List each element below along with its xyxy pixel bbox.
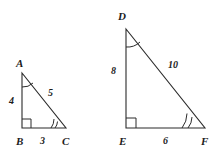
angle-arc-c-outer bbox=[51, 119, 54, 128]
side-label-de: 8 bbox=[111, 66, 116, 76]
side-label-ac: 5 bbox=[48, 88, 53, 98]
right-angle-mark-e bbox=[126, 118, 136, 128]
angle-arc-c-inner bbox=[55, 122, 58, 129]
geometry-figure: A B C 4 3 5 D E F 8 6 10 bbox=[0, 0, 218, 162]
triangle-abc-outline bbox=[22, 73, 66, 128]
triangle-def bbox=[126, 29, 205, 128]
vertex-label-c: C bbox=[62, 136, 69, 147]
vertex-label-b: B bbox=[16, 136, 23, 147]
angle-arc-f-outer bbox=[182, 114, 187, 129]
side-label-df: 10 bbox=[168, 60, 178, 70]
side-label-ef: 6 bbox=[163, 136, 168, 146]
angle-arc-a bbox=[22, 83, 33, 87]
vertex-label-e: E bbox=[119, 136, 126, 147]
side-label-ab: 4 bbox=[9, 96, 14, 106]
right-angle-mark-b bbox=[22, 119, 31, 128]
side-label-bc: 3 bbox=[40, 136, 45, 146]
triangles-drawing bbox=[0, 0, 218, 162]
vertex-label-d: D bbox=[118, 11, 126, 22]
triangle-abc bbox=[22, 73, 66, 128]
vertex-label-f: F bbox=[201, 136, 208, 147]
angle-arc-f-inner bbox=[188, 117, 192, 128]
vertex-label-a: A bbox=[16, 58, 23, 69]
